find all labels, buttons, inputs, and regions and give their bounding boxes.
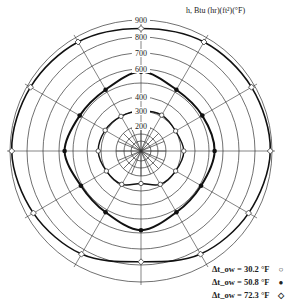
svg-text:800: 800 [135, 33, 147, 42]
chart-title: h, Btu (hr)(ft²)(°F) [186, 6, 245, 15]
svg-text:900: 900 [135, 16, 147, 25]
legend-label: Δt_ow = 50.8 °F [212, 276, 272, 289]
svg-text:700: 700 [135, 49, 147, 58]
svg-text:400: 400 [135, 93, 147, 102]
svg-text:200: 200 [135, 122, 147, 131]
legend-item-72-3: Δt_ow = 72.3 °F ◇ [212, 289, 286, 302]
filled-circle-icon: ● [276, 276, 286, 289]
svg-text:300: 300 [135, 107, 147, 116]
svg-text:600: 600 [135, 65, 147, 74]
legend-item-30-2: Δt_ow = 30.2 °F ○ [212, 263, 286, 276]
legend-label: Δt_ow = 72.3 °F [212, 289, 272, 302]
open-circle-icon: ○ [276, 263, 286, 276]
legend-label: Δt_ow = 30.2 °F [212, 263, 272, 276]
legend: Δt_ow = 30.2 °F ○ Δt_ow = 50.8 °F ● Δt_o… [212, 263, 286, 302]
polar-chart: 200300400600700800900 [0, 0, 286, 306]
open-diamond-icon: ◇ [276, 289, 286, 302]
legend-item-50-8: Δt_ow = 50.8 °F ● [212, 276, 286, 289]
